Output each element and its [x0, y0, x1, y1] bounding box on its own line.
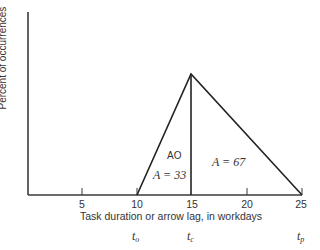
area-left-label: A = 33 — [153, 168, 186, 183]
ao-label: AO — [167, 150, 181, 161]
x-axis-label: Task duration or arrow lag, in workdays — [80, 210, 262, 222]
t-o-marker: to — [132, 229, 139, 244]
x-tick-label-25: 25 — [295, 198, 307, 210]
t-c-marker: tc — [187, 229, 194, 244]
x-tick-label-15: 15 — [186, 198, 198, 210]
t-p-marker: tp — [297, 229, 304, 244]
x-tick-label-10: 10 — [131, 198, 143, 210]
area-right-label: A = 67 — [212, 155, 245, 170]
x-tick-label-5: 5 — [79, 198, 85, 210]
x-tick-label-20: 20 — [241, 198, 253, 210]
